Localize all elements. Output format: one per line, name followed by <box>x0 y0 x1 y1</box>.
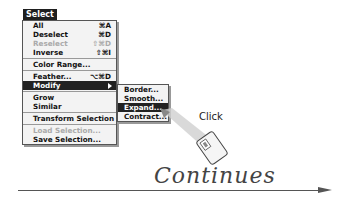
menu-divider <box>23 112 116 113</box>
menu-item-feather[interactable]: Feather...⌥⌘D <box>23 72 116 81</box>
menu-item-label: Border... <box>124 85 159 94</box>
menu-item-all[interactable]: All⌘A <box>23 21 116 30</box>
menu-item-label: Color Range... <box>33 60 90 69</box>
menu-item-reselect: Reselect⇧⌘D <box>23 39 116 48</box>
menu-divider <box>23 58 116 59</box>
menu-item-label: Modify <box>33 81 61 90</box>
menu-item-label: Deselect <box>33 30 68 39</box>
menu-item-label: Save Selection... <box>33 135 101 144</box>
menu-item-modify[interactable]: Modify <box>23 81 116 90</box>
menu-item-load-selection: Load Selection... <box>23 126 116 135</box>
menu-item-similar[interactable]: Similar <box>23 102 116 111</box>
shortcut: ⌘A <box>99 21 111 30</box>
select-menu: All⌘A Deselect⌘D Reselect⇧⌘D Inverse⇧⌘I … <box>22 20 117 145</box>
menu-divider <box>23 70 116 71</box>
menu-item-deselect[interactable]: Deselect⌘D <box>23 30 116 39</box>
shortcut: ⌥⌘D <box>90 72 111 81</box>
menu-item-label: Transform Selection <box>33 114 114 123</box>
click-annotation: Click <box>199 111 223 122</box>
menu-item-transform-selection[interactable]: Transform Selection <box>23 114 116 123</box>
menu-item-label: Load Selection... <box>33 126 101 135</box>
menu-item-grow[interactable]: Grow <box>23 93 116 102</box>
menu-item-label: Inverse <box>33 48 63 57</box>
menu-item-save-selection[interactable]: Save Selection... <box>23 135 116 144</box>
submenu-arrow-icon <box>108 83 112 89</box>
menu-item-color-range[interactable]: Color Range... <box>23 60 116 69</box>
continues-rule <box>18 190 318 191</box>
menu-item-label: Feather... <box>33 72 71 81</box>
shortcut: ⇧⌘D <box>92 39 111 48</box>
menu-item-label: Grow <box>33 93 54 102</box>
continues-arrow-icon <box>318 187 332 193</box>
menu-divider <box>23 91 116 92</box>
menu-title-select[interactable]: Select <box>23 9 57 20</box>
submenu-item-border[interactable]: Border... <box>118 85 168 94</box>
continues-label: Continues <box>154 163 276 188</box>
shortcut: ⇧⌘I <box>96 48 111 57</box>
shortcut: ⌘D <box>98 30 111 39</box>
menu-item-inverse[interactable]: Inverse⇧⌘I <box>23 48 116 57</box>
menu-item-label: Reselect <box>33 39 68 48</box>
menu-divider <box>23 124 116 125</box>
menu-item-label: Similar <box>33 102 61 111</box>
menu-item-label: All <box>33 21 44 30</box>
